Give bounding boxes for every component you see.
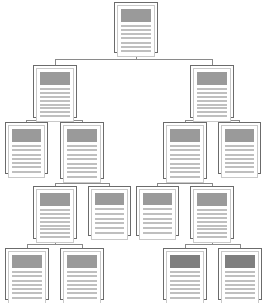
document-page-icon [8,125,45,178]
document-text-lines [67,142,97,180]
document-page-icon [221,125,258,178]
document-header-block [170,255,200,268]
document-text-line [197,221,227,223]
document-text-line [67,275,97,277]
document-page-icon [63,125,101,183]
document-header-block [170,129,200,142]
document-text-line [12,284,42,286]
document-text-line [143,208,172,210]
document-text-line [197,100,227,102]
document-page-icon [193,68,231,122]
document-header-block [95,193,124,205]
tree-node-right-branch-document[interactable] [190,65,234,118]
document-header-block [67,255,97,268]
document-text-line [40,217,70,219]
document-text-line [225,288,255,290]
document-text-line [40,96,70,98]
tree-node-root-document[interactable] [114,2,158,53]
document-text-line [67,167,97,169]
document-text-line [12,154,41,156]
tree-node-left-child-document-b[interactable] [60,122,104,179]
document-header-block [225,255,255,268]
document-text-line [197,111,227,113]
tree-node-left-branch-document[interactable] [33,65,77,118]
document-page-icon [193,189,231,243]
document-text-lines [225,268,255,301]
node-layer [0,0,267,303]
document-text-lines [143,205,172,237]
document-text-line [67,145,97,147]
document-text-line [170,171,200,173]
tree-node-left-leaf-document-b[interactable] [60,248,104,300]
document-text-line [143,213,172,215]
tree-node-left-leaf-document-a[interactable] [5,248,49,300]
tree-node-right-leaf-document-a[interactable] [163,248,207,300]
document-text-line [40,228,70,230]
document-text-line [67,271,97,273]
document-text-line [67,163,97,165]
document-text-line [67,154,97,156]
tree-node-right-child-document-a[interactable] [163,122,207,179]
document-text-lines [121,22,151,54]
document-text-line [12,158,41,160]
document-text-line [12,166,41,168]
document-text-line [121,25,151,27]
document-text-lines [40,85,70,119]
document-text-line [95,227,124,229]
tree-node-right-leaf-document-b[interactable] [218,248,262,300]
document-text-line [170,167,200,169]
document-text-line [12,162,41,164]
document-text-line [121,37,151,39]
document-header-block [197,193,227,206]
document-header-block [40,193,70,206]
document-text-line [170,292,200,294]
document-text-lines [40,206,70,240]
document-header-block [143,193,172,205]
document-text-lines [197,85,227,119]
document-text-lines [170,268,200,301]
document-text-line [225,145,254,147]
document-text-line [67,284,97,286]
tree-node-left-grandchild-document-a[interactable] [33,186,77,239]
document-text-line [225,280,255,282]
document-text-line [197,213,227,215]
document-text-lines [170,142,200,180]
document-text-line [225,166,254,168]
document-text-line [40,100,70,102]
document-text-line [197,232,227,234]
document-text-line [12,280,42,282]
document-text-line [67,149,97,151]
document-text-line [12,288,42,290]
document-text-line [67,280,97,282]
document-text-line [225,171,254,173]
document-text-line [170,288,200,290]
tree-node-left-grandchild-document-b[interactable] [88,186,131,236]
document-text-line [67,288,97,290]
document-text-line [40,236,70,238]
document-text-line [225,297,255,299]
document-page-icon [8,251,46,303]
document-text-line [12,297,42,299]
document-text-line [197,92,227,94]
tree-diagram-canvas [0,0,267,303]
document-text-line [170,271,200,273]
document-text-line [95,222,124,224]
tree-node-right-grandchild-document-a[interactable] [136,186,179,236]
document-text-line [40,107,70,109]
document-text-line [40,88,70,90]
document-header-block [12,129,41,142]
document-text-line [95,213,124,215]
document-text-line [121,50,151,52]
document-header-block [197,72,227,85]
document-text-lines [197,206,227,240]
document-text-line [225,162,254,164]
document-text-line [197,225,227,227]
document-text-line [143,218,172,220]
document-page-icon [166,251,204,303]
document-text-line [67,176,97,178]
document-header-block [12,255,42,268]
tree-node-left-child-document-a[interactable] [5,122,48,174]
tree-node-right-child-document-b[interactable] [218,122,261,174]
tree-node-right-grandchild-document-b[interactable] [190,186,234,239]
document-text-line [95,232,124,234]
